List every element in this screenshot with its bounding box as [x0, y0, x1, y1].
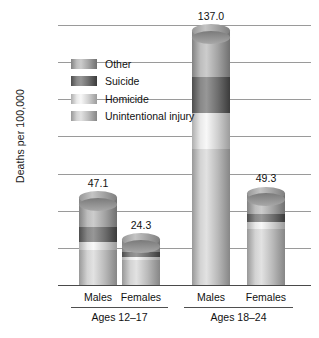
bar-value-label-1: 24.3 — [101, 219, 181, 231]
bar-top-cap-shadow — [192, 31, 230, 44]
legend-item-unintentional-injury: Unintentional injury — [71, 109, 194, 124]
y-axis-title: Deaths per 100,000 — [14, 76, 26, 196]
legend-label-homicide: Homicide — [105, 93, 149, 105]
bar-females-1 — [122, 240, 160, 285]
bar-top-cap-shadow — [79, 198, 117, 211]
legend-label-other: Other — [105, 58, 131, 70]
bar-segment-homicide — [192, 113, 230, 149]
bar-segment-suicide — [192, 77, 230, 112]
bar-value-label-0: 47.1 — [58, 177, 138, 189]
bar-segment-homicide — [122, 257, 160, 261]
bar-females-3 — [247, 193, 285, 285]
legend-label-unintentional-injury: Unintentional injury — [105, 110, 194, 122]
bar-males-2 — [192, 31, 230, 285]
group-rule-0 — [71, 307, 168, 308]
legend-swatch-homicide — [71, 94, 97, 104]
bar-segment-unintentional-injury — [122, 260, 160, 285]
bar-value-label-2: 137.0 — [171, 10, 251, 22]
group-label-0: Ages 12–17 — [60, 311, 180, 323]
gridline-80 — [58, 136, 311, 137]
bar-segment-unintentional-injury — [192, 149, 230, 285]
stacked-bar-chart: Deaths per 100,000 020406080100120140 47… — [0, 0, 319, 338]
bar-segment-unintentional-injury — [79, 250, 117, 285]
bar-segment-homicide — [79, 242, 117, 250]
bar-top-cap-shadow — [122, 240, 160, 253]
legend-label-suicide: Suicide — [105, 75, 139, 87]
legend-swatch-unintentional-injury — [71, 111, 97, 121]
x-axis-label-1-females: Females — [106, 291, 176, 303]
gridline-0 — [58, 285, 311, 286]
bar-males-0 — [79, 198, 117, 285]
legend-swatch-suicide — [71, 76, 97, 86]
legend-item-suicide: Suicide — [71, 74, 194, 89]
bar-segment-suicide — [247, 214, 285, 221]
legend-item-other: Other — [71, 56, 194, 71]
x-axis-label-3-females: Females — [231, 291, 301, 303]
group-rule-1 — [184, 307, 293, 308]
bar-value-label-3: 49.3 — [226, 172, 306, 184]
bar-segment-homicide — [247, 222, 285, 229]
group-label-1: Ages 18–24 — [179, 311, 299, 323]
gridline-140 — [58, 25, 311, 26]
bar-segment-unintentional-injury — [247, 229, 285, 285]
legend-item-homicide: Homicide — [71, 91, 194, 106]
legend: OtherSuicideHomicideUnintentional injury — [71, 56, 194, 126]
legend-swatch-other — [71, 59, 97, 69]
